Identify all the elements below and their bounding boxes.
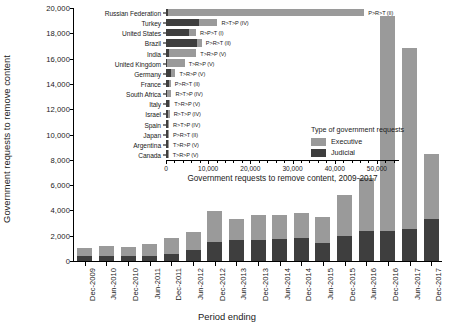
main-bar-segment-executive — [359, 178, 374, 231]
inset-x-tick-group: 010,00020,00030,00040,00050,000 — [166, 161, 399, 175]
main-y-tick-label: 12,000 — [46, 105, 70, 114]
inset-country-label: Italy — [149, 101, 161, 108]
main-x-tick-label: Dec-2010 — [131, 268, 140, 301]
inset-bar-segment-executive — [199, 19, 217, 27]
main-bar — [359, 178, 374, 261]
inset-x-tick-mark — [217, 161, 218, 163]
inset-annotation: T>R>P (V) — [179, 71, 205, 77]
main-bar-segment-judicial — [207, 242, 222, 261]
main-y-tick-label: 14,000 — [46, 79, 70, 88]
main-x-tick-label: Dec-2011 — [174, 268, 183, 300]
inset-x-tick-label: 50,000 — [367, 165, 387, 172]
main-x-axis-title: Period ending — [0, 311, 454, 322]
main-x-tick-mark — [150, 262, 151, 266]
inset-x-tick-mark — [343, 161, 344, 163]
inset-bar-segment-executive — [168, 150, 169, 158]
legend-entry: Executive — [311, 137, 404, 147]
main-x-tick-label: Jun-2017 — [413, 268, 422, 300]
inset-bar — [166, 59, 185, 67]
main-x-tick-mark — [388, 262, 389, 266]
inset-bar — [166, 130, 169, 138]
inset-x-tick-mark — [208, 161, 209, 164]
inset-annotation: T>R>P (V) — [174, 101, 200, 107]
inset-x-tick-label: 20,000 — [240, 165, 260, 172]
inset-annotation: P>R>T (II) — [206, 40, 231, 46]
inset-row: FranceP>R>T (II) — [166, 79, 398, 89]
inset-x-tick-mark — [318, 161, 319, 163]
inset-x-tick-mark — [293, 161, 294, 164]
inset-annotation: P>R>T (II) — [175, 81, 200, 87]
main-bar — [99, 246, 114, 261]
inset-x-tick-label: 30,000 — [282, 165, 302, 172]
inset-x-tick-mark — [276, 161, 277, 163]
main-bar-segment-judicial — [99, 256, 114, 261]
inset-bar — [166, 90, 171, 98]
inset-bar — [166, 49, 196, 57]
main-bar — [251, 215, 266, 261]
inset-x-tick-mark — [166, 161, 167, 164]
legend: Type of government requests ExecutiveJud… — [311, 125, 404, 159]
main-y-tick-label: 0 — [66, 257, 70, 266]
inset-x-tick-mark — [284, 161, 285, 163]
inset-row: ItalyT>R>P (V) — [166, 99, 398, 109]
main-x-tick-group: Dec-2009Jun-2010Dec-2010Jun-2011Dec-2011… — [74, 262, 442, 312]
inset-x-tick-mark — [191, 161, 192, 163]
main-y-tick-label: 2,000 — [50, 231, 70, 240]
main-x-tick-label: Jun-2014 — [283, 268, 292, 300]
main-x-tick-mark — [431, 262, 432, 266]
main-bar-segment-executive — [99, 246, 114, 255]
inset-country-label: Israel — [145, 111, 161, 118]
main-bar-segment-executive — [207, 211, 222, 242]
main-bar-segment-executive — [121, 247, 136, 256]
main-bar-segment-judicial — [229, 240, 244, 261]
inset-country-label: India — [147, 50, 161, 57]
main-x-tick-mark — [258, 262, 259, 266]
inset-bar — [166, 150, 169, 158]
inset-bar — [166, 110, 170, 118]
main-x-tick-label: Dec-2017 — [434, 268, 443, 301]
inset-x-tick-mark — [352, 161, 353, 163]
inset-x-tick-mark — [267, 161, 268, 163]
main-y-tick-label: 10,000 — [46, 130, 70, 139]
main-bar-segment-executive — [186, 232, 201, 250]
inset-x-tick-mark — [200, 161, 201, 163]
main-x-tick-label: Jun-2010 — [109, 268, 118, 300]
inset-annotation: R>T>P (IV) — [173, 122, 200, 128]
main-bar-segment-executive — [272, 215, 287, 238]
inset-row: United StatesR>P>T (I) — [166, 28, 398, 38]
main-bar — [315, 217, 330, 261]
legend-entry: Judicial — [311, 148, 404, 158]
inset-row: TurkeyR>T>P (IV) — [166, 18, 398, 28]
inset-x-tick-mark — [394, 161, 395, 163]
main-x-tick-label: Dec-2015 — [348, 268, 357, 301]
legend-label: Judicial — [331, 148, 355, 157]
inset-bar — [166, 9, 364, 17]
main-bar — [207, 211, 222, 261]
inset-annotation: T>R>P (V) — [173, 142, 199, 148]
inset-annotation: R>P>T (I) — [200, 30, 224, 36]
inset-country-label: Spain — [144, 121, 161, 128]
main-x-tick-mark — [280, 262, 281, 266]
main-bar-segment-judicial — [380, 231, 395, 261]
main-x-tick-mark — [193, 262, 194, 266]
main-x-tick-mark — [366, 262, 367, 266]
inset-x-tick-label: 10,000 — [198, 165, 218, 172]
main-x-tick-label: Dec-2016 — [391, 268, 400, 301]
inset-annotation: T>R>P (V) — [173, 152, 199, 158]
main-bar-segment-judicial — [121, 256, 136, 261]
inset-x-tick-mark — [174, 161, 175, 163]
main-x-tick-mark — [128, 262, 129, 266]
inset-x-tick-mark — [233, 161, 234, 163]
main-bar — [229, 219, 244, 261]
inset-chart: Russian FederationP>R>T (II)TurkeyR>T>P … — [74, 8, 442, 183]
inset-annotation: T>R>P (V) — [200, 51, 226, 57]
main-x-tick-mark — [323, 262, 324, 266]
inset-x-tick-mark — [360, 161, 361, 163]
inset-annotation: R>T>P (IV) — [174, 111, 201, 117]
main-x-tick-label: Jun-2013 — [239, 268, 248, 300]
inset-x-tick-mark — [183, 161, 184, 163]
inset-x-tick-mark — [259, 161, 260, 163]
main-x-tick-mark — [85, 262, 86, 266]
main-bar — [77, 248, 92, 261]
main-bar — [272, 215, 287, 261]
